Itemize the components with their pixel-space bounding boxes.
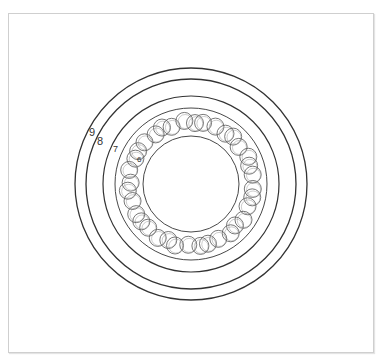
ring-label-8: 8: [97, 135, 103, 147]
concentric-rings: [75, 68, 307, 300]
bearing-diagram: 9876: [0, 0, 380, 364]
ring-label-7: 7: [113, 144, 118, 154]
inner-race: [143, 136, 239, 232]
ring-label-6: 6: [137, 155, 142, 164]
ball-inner-outline: [212, 232, 226, 246]
ball-inner-outline: [162, 234, 176, 248]
ball-inner-outline: [165, 120, 179, 134]
ring-label-9: 9: [89, 126, 95, 138]
ring-7: [103, 96, 279, 272]
ring-9: [75, 68, 307, 300]
ball-inner-outline: [219, 127, 233, 141]
ball-track: [119, 112, 261, 254]
ball-inner-outline: [209, 120, 223, 134]
ball-inner-outline: [237, 213, 251, 227]
ball-inner-outline: [182, 238, 196, 252]
ring-8: [86, 79, 296, 289]
ball-inner-outline: [197, 116, 211, 130]
ball-inner-outline: [169, 239, 183, 253]
ball-inner-outline: [241, 200, 255, 214]
